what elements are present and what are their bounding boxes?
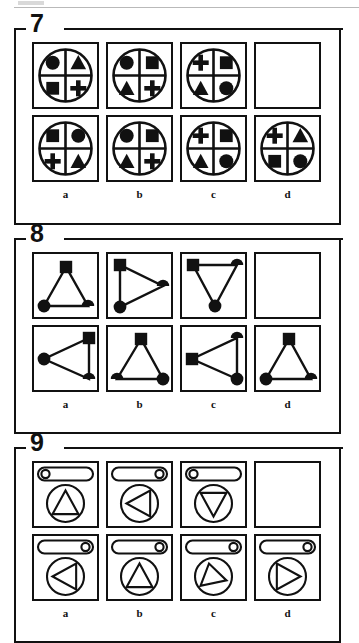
quadrant-shape-triangle	[193, 81, 209, 95]
column-label-c: c	[180, 188, 247, 200]
vertex-marker-square	[60, 261, 72, 273]
answer-blank-cell[interactable]	[254, 42, 321, 109]
column-label-c: c	[180, 607, 247, 619]
figure-cell[interactable]	[254, 534, 321, 601]
figure-cell[interactable]	[254, 115, 321, 182]
figure-cell[interactable]	[32, 252, 99, 319]
quadrant-shape-triangle	[119, 81, 135, 95]
puzzle-grid: abcd	[32, 461, 324, 619]
vertex-marker-circle	[231, 373, 244, 386]
figure-cell[interactable]	[180, 42, 247, 109]
quadrant-shape-circle	[71, 129, 85, 143]
answer-row	[32, 325, 324, 392]
column-label-b: b	[106, 398, 173, 410]
vertex-marker-circle	[209, 300, 222, 313]
column-label-a: a	[32, 188, 99, 200]
vertex-marker-half-circle-right	[83, 373, 95, 379]
vertex-marker-square	[83, 332, 95, 344]
vertex-marker-square	[187, 259, 199, 271]
figure-cell[interactable]	[106, 42, 173, 109]
answer-row	[32, 115, 324, 182]
quadrant-shape-triangle	[193, 154, 209, 168]
quadrant-shape-circle	[46, 56, 60, 70]
quadrant-shape-square	[220, 56, 233, 69]
column-labels: abcd	[32, 398, 324, 410]
quadrant-shape-square	[220, 129, 233, 142]
page-scan-artifact-line	[14, 7, 359, 8]
figure-cell[interactable]	[180, 325, 247, 392]
problem-row	[32, 252, 324, 319]
answer-blank-cell[interactable]	[254, 252, 321, 319]
puzzle-number: 7	[30, 11, 43, 36]
column-label-d: d	[254, 398, 321, 410]
puzzle-number: 8	[30, 221, 43, 246]
figure-cell[interactable]	[32, 325, 99, 392]
figure-cell[interactable]	[106, 115, 173, 182]
page-scan-artifact-corner	[18, 1, 44, 5]
quadrant-shape-circle	[219, 154, 233, 168]
answer-blank-cell[interactable]	[254, 461, 321, 528]
vertex-marker-square	[135, 333, 147, 345]
quadrant-shape-circle	[219, 81, 233, 95]
vertex-marker-square	[186, 353, 198, 365]
puzzle-number: 9	[30, 430, 43, 455]
vertex-marker-circle	[157, 373, 170, 386]
quadrant-shape-square	[146, 56, 159, 69]
figure-cell[interactable]	[106, 461, 173, 528]
figure-cell[interactable]	[180, 534, 247, 601]
column-label-d: d	[254, 188, 321, 200]
figure-cell[interactable]	[180, 461, 247, 528]
vertex-marker-half-circle-right	[305, 373, 317, 379]
column-label-a: a	[32, 398, 99, 410]
figure-cell[interactable]	[106, 534, 173, 601]
vertex-marker-circle	[114, 301, 127, 314]
column-label-b: b	[106, 188, 173, 200]
figure-cell[interactable]	[32, 42, 99, 109]
quadrant-shape-circle	[120, 56, 134, 70]
vertex-marker-circle	[38, 300, 51, 313]
column-label-b: b	[106, 607, 173, 619]
figure-cell[interactable]	[180, 115, 247, 182]
problem-row	[32, 461, 324, 528]
column-label-a: a	[32, 607, 99, 619]
figure-cell[interactable]	[32, 461, 99, 528]
vertex-marker-circle	[260, 373, 273, 386]
quadrant-shape-triangle	[71, 154, 87, 168]
vertex-marker-circle	[38, 353, 51, 366]
figure-cell[interactable]	[32, 534, 99, 601]
quadrant-shape-square	[268, 155, 281, 168]
quadrant-shape-circle	[293, 154, 307, 168]
puzzle-grid: abcd	[32, 42, 324, 200]
column-label-c: c	[180, 398, 247, 410]
quadrant-shape-triangle	[119, 154, 135, 168]
column-label-d: d	[254, 607, 321, 619]
figure-cell[interactable]	[106, 325, 173, 392]
quadrant-shape-circle	[120, 129, 134, 143]
quadrant-shape-square	[146, 129, 159, 142]
quadrant-shape-square	[46, 82, 59, 95]
vertex-marker-square	[114, 259, 126, 271]
quadrant-shape-square	[46, 129, 59, 142]
vertex-marker-square	[283, 333, 295, 345]
figure-cell[interactable]	[32, 115, 99, 182]
vertex-marker-half-circle-right	[231, 259, 243, 265]
column-labels: abcd	[32, 607, 324, 619]
puzzle-grid: abcd	[32, 252, 324, 410]
vertex-marker-half-circle-right	[157, 280, 169, 286]
figure-cell[interactable]	[106, 252, 173, 319]
column-labels: abcd	[32, 188, 324, 200]
figure-cell[interactable]	[180, 252, 247, 319]
answer-row	[32, 534, 324, 601]
vertex-marker-half-circle-right	[231, 332, 243, 338]
figure-cell[interactable]	[254, 325, 321, 392]
problem-row	[32, 42, 324, 109]
